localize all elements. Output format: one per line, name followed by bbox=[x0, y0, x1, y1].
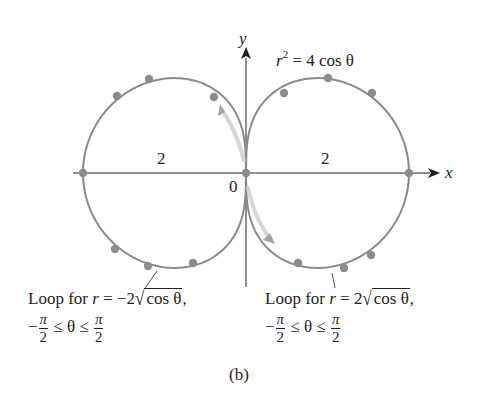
left-loop-range: −π2 ≤ θ ≤ π2 bbox=[28, 312, 104, 345]
right-range-upper-frac: π2 bbox=[331, 312, 341, 345]
equation-rhs: = 4 cos θ bbox=[292, 51, 354, 70]
point-marker bbox=[210, 93, 218, 101]
right-tick-label: 2 bbox=[321, 150, 330, 167]
left-loop-leader-line bbox=[145, 271, 157, 288]
right-loop-leader-line bbox=[332, 273, 335, 288]
left-range-minus: − bbox=[28, 317, 38, 336]
figure-caption: (b) bbox=[229, 366, 249, 383]
point-marker bbox=[111, 245, 119, 253]
point-marker bbox=[79, 169, 87, 177]
point-marker bbox=[144, 262, 152, 270]
direction-highlight-lower-right bbox=[248, 188, 270, 238]
left-range-lower-frac: π2 bbox=[39, 312, 49, 345]
point-marker bbox=[145, 75, 153, 83]
left-loop-suffix: , bbox=[182, 289, 186, 308]
right-loop-label-line1: Loop for r = 2√cos θ, bbox=[265, 288, 414, 307]
left-range-upper-frac: π2 bbox=[94, 312, 104, 345]
direction-arrow-lower-right-icon bbox=[263, 233, 275, 244]
y-axis-arrow-icon bbox=[241, 47, 251, 59]
x-axis-label: x bbox=[445, 164, 453, 181]
right-range-mid: ≤ θ ≤ bbox=[286, 317, 330, 336]
equation-exponent: 2 bbox=[283, 48, 289, 60]
left-loop-var: r bbox=[92, 289, 99, 308]
left-tick-label: 2 bbox=[157, 150, 166, 167]
point-marker bbox=[340, 264, 348, 272]
left-loop-label-line1: Loop for r = −2√cos θ, bbox=[28, 288, 187, 307]
right-loop-sqrt-content: cos θ bbox=[372, 288, 410, 307]
point-marker bbox=[242, 169, 250, 177]
right-range-lower-frac: π2 bbox=[276, 312, 286, 345]
left-loop-prefix: Loop for bbox=[28, 289, 92, 308]
right-loop-mid: = 2 bbox=[336, 289, 363, 308]
right-loop-prefix: Loop for bbox=[265, 289, 329, 308]
point-marker bbox=[367, 251, 375, 259]
equation-label: r2 = 4 cos θ bbox=[276, 52, 354, 69]
point-marker bbox=[368, 89, 376, 97]
point-marker bbox=[405, 169, 413, 177]
right-loop-suffix: , bbox=[410, 289, 414, 308]
point-marker bbox=[294, 259, 302, 267]
left-loop-sqrt: √cos θ bbox=[135, 288, 182, 307]
polar-graph bbox=[0, 0, 479, 407]
left-loop-mid: = −2 bbox=[99, 289, 135, 308]
right-loop-var: r bbox=[329, 289, 336, 308]
right-loop-range: −π2 ≤ θ ≤ π2 bbox=[265, 312, 341, 345]
point-marker bbox=[324, 74, 332, 82]
point-marker bbox=[189, 259, 197, 267]
equation-var: r bbox=[276, 51, 283, 70]
right-loop-sqrt: √cos θ bbox=[362, 288, 409, 307]
origin-label: 0 bbox=[229, 178, 238, 195]
left-loop-sqrt-content: cos θ bbox=[144, 288, 182, 307]
left-range-mid: ≤ θ ≤ bbox=[49, 317, 93, 336]
right-range-minus: − bbox=[265, 317, 275, 336]
point-marker bbox=[280, 89, 288, 97]
y-axis-label: y bbox=[239, 30, 247, 47]
direction-highlight-upper-left bbox=[222, 110, 244, 160]
point-marker bbox=[113, 92, 121, 100]
